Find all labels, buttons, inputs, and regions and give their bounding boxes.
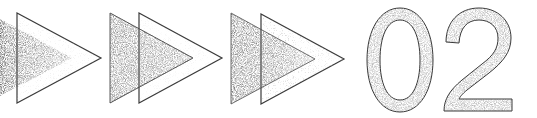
arrow-pair-2 [110,13,222,103]
digit-zero-shape [367,8,433,112]
digit-zero [367,8,433,112]
digit-two-shape [444,8,512,111]
section-heading-graphic [0,0,537,118]
arrow-pair-1 [0,13,101,103]
arrow-pair-3 [231,13,344,104]
digit-two [444,8,512,111]
